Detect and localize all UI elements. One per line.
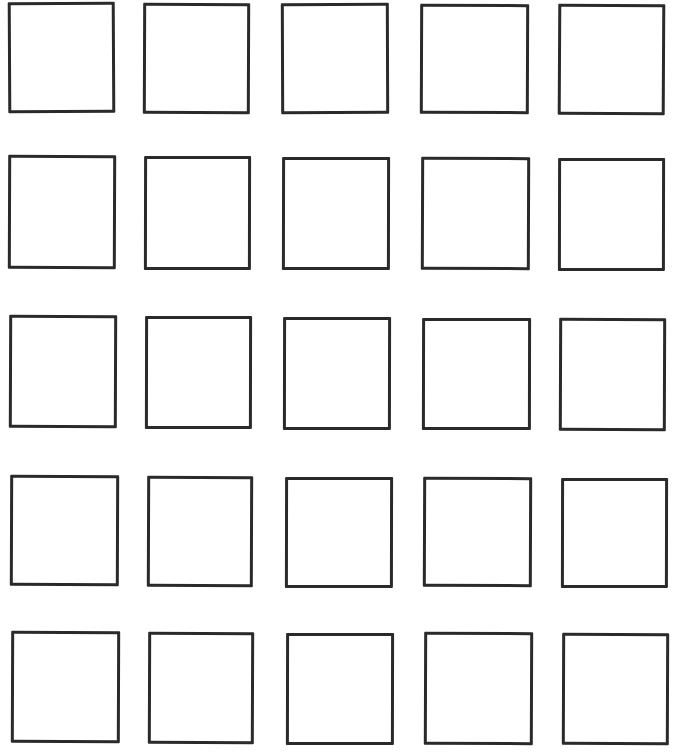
grid-box [147, 476, 253, 587]
grid-box [282, 157, 390, 270]
grid-box [145, 316, 252, 429]
box-grid [0, 0, 674, 754]
grid-box [285, 477, 393, 588]
grid-box [10, 475, 119, 586]
grid-box [8, 155, 116, 269]
grid-box [423, 477, 532, 587]
grid-box [562, 633, 669, 745]
grid-box [558, 158, 665, 271]
grid-box [421, 157, 530, 270]
grid-box [148, 632, 254, 744]
grid-box [559, 318, 666, 431]
grid-box [11, 631, 120, 743]
grid-box [424, 632, 533, 745]
grid-box [143, 3, 250, 114]
grid-box [8, 2, 116, 114]
grid-box [281, 3, 389, 114]
grid-box [9, 315, 117, 428]
grid-box [561, 478, 668, 588]
grid-box [558, 4, 666, 116]
grid-box [283, 317, 391, 430]
grid-box [144, 156, 251, 270]
grid-box [286, 633, 394, 745]
grid-box [422, 318, 531, 430]
grid-box [420, 4, 529, 114]
